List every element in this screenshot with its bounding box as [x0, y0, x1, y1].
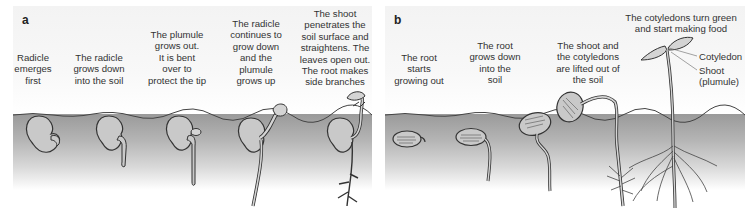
bean-seed-stage-4: [238, 104, 287, 206]
seedling-stage-b5: [629, 37, 717, 208]
bean-seed-stage-2: [96, 116, 126, 167]
panel-a: a Radicle emerges first The radicle grow…: [13, 6, 372, 211]
soil-surface-line: [13, 105, 372, 122]
seed-stage-b1: [393, 131, 425, 147]
seedling-stage-b4: [554, 89, 635, 206]
bean-seed-stage-5: [327, 92, 365, 206]
bean-seed-stage-1: [26, 116, 59, 152]
panel-a-illustration: [13, 6, 372, 211]
panel-b-illustration: [385, 6, 745, 211]
label-leader-lines: [669, 48, 697, 70]
bean-seed-stage-3: [166, 116, 201, 185]
panel-b: b The root starts growing out The root g…: [385, 6, 745, 211]
seed-stage-b3: [517, 109, 554, 191]
seed-stage-b2: [456, 129, 490, 182]
